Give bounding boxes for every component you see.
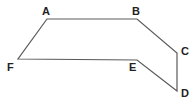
vertex-label-e: E (129, 61, 136, 73)
polygon-abcdef (18, 19, 177, 91)
vertex-label-c: C (181, 45, 189, 57)
vertex-label-d: D (181, 87, 189, 99)
hexagon-diagram: A B C D E F (0, 0, 196, 102)
vertex-label-b: B (132, 5, 140, 17)
vertex-label-a: A (42, 5, 50, 17)
vertex-label-f: F (7, 61, 14, 73)
